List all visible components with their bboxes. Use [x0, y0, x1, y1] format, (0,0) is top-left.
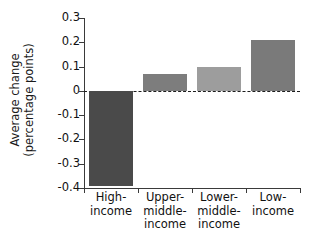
- x-axis-tick-label-line: income: [138, 218, 192, 232]
- x-axis-tick-label-line: income: [192, 218, 246, 232]
- y-axis-label-line-1: Average change: [8, 43, 22, 156]
- y-axis-tick-mark: [79, 18, 84, 19]
- bar: [251, 40, 295, 91]
- x-axis-tick-mark: [300, 188, 301, 193]
- y-axis-line: [84, 18, 85, 188]
- x-axis-tick-label-line: middle-: [138, 205, 192, 219]
- x-axis-tick-label: High-income: [84, 191, 138, 218]
- y-axis-tick-mark: [79, 115, 84, 116]
- y-axis-tick-label: -0.2: [50, 134, 80, 146]
- bar-chart-figure: Average change (percentage points) 0.30.…: [0, 0, 309, 238]
- x-axis-tick-label-line: Upper-: [138, 191, 192, 205]
- y-axis-tick-label: 0.3: [50, 12, 80, 24]
- bar: [197, 67, 241, 91]
- y-axis-tick-mark: [79, 139, 84, 140]
- x-axis-tick-label-line: middle-: [192, 205, 246, 219]
- x-axis-tick-label-line: income: [84, 205, 138, 219]
- y-axis-tick-mark: [79, 42, 84, 43]
- plot-area: [84, 18, 300, 188]
- bar: [89, 91, 133, 186]
- y-axis-tick-label: -0.3: [50, 158, 80, 170]
- y-axis-tick-label: 0.1: [50, 61, 80, 73]
- x-axis-tick-labels: High-incomeUpper-middle-incomeLower-midd…: [84, 191, 300, 238]
- y-axis-tick-label: 0: [50, 85, 80, 97]
- x-axis-tick-label-line: Lower-: [192, 191, 246, 205]
- bar: [143, 74, 187, 91]
- y-axis-tick-label: -0.4: [50, 182, 80, 194]
- x-axis-tick-label-line: income: [246, 205, 300, 219]
- x-axis-tick-label: Lower-middle-income: [192, 191, 246, 232]
- x-axis-tick-label: Upper-middle-income: [138, 191, 192, 232]
- x-axis-tick-label-line: Low-: [246, 191, 300, 205]
- y-axis-tick-label: -0.1: [50, 109, 80, 121]
- y-axis-tick-label: 0.2: [50, 37, 80, 49]
- y-axis-tick-mark: [79, 164, 84, 165]
- y-axis-label: Average change (percentage points): [0, 0, 44, 200]
- x-axis-tick-label: Low-income: [246, 191, 300, 218]
- y-axis-tick-labels: 0.30.20.10-0.1-0.2-0.3-0.4: [44, 0, 80, 238]
- y-axis-tick-mark: [79, 91, 84, 92]
- y-axis-tick-mark: [79, 67, 84, 68]
- x-axis-tick-label-line: High-: [84, 191, 138, 205]
- y-axis-label-line-2: (percentage points): [22, 43, 36, 156]
